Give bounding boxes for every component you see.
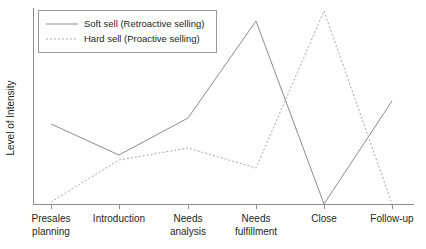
chart-container: Level of Intensity PresalesplanningIntro… [0, 0, 426, 249]
x-tick-label-0-line0: Presales [32, 213, 71, 224]
line-chart: Level of Intensity PresalesplanningIntro… [0, 0, 426, 249]
x-tick-label-5-line0: Follow-up [370, 213, 414, 224]
x-tick-label-3-line0: Needs [242, 213, 271, 224]
x-axis-ticks [51, 204, 392, 209]
x-tick-label-2-line1: analysis [170, 226, 206, 237]
x-axis-tick-labels: PresalesplanningIntroductionNeedsanalysi… [32, 213, 415, 237]
x-tick-label-4-line0: Close [311, 213, 337, 224]
x-tick-label-0-line1: planning [32, 226, 70, 237]
legend-label-hard-sell: Hard sell (Proactive selling) [84, 33, 200, 44]
x-tick-label-3-line1: fulfillment [235, 226, 277, 237]
legend-label-soft-sell: Soft sell (Retroactive selling) [84, 18, 204, 29]
x-tick-label-1-line0: Introduction [93, 213, 145, 224]
x-tick-label-2-line0: Needs [174, 213, 203, 224]
chart-legend: Soft sell (Retroactive selling) Hard sel… [38, 10, 216, 52]
y-axis-label: Level of Intensity [5, 80, 16, 155]
legend-box [38, 10, 216, 52]
